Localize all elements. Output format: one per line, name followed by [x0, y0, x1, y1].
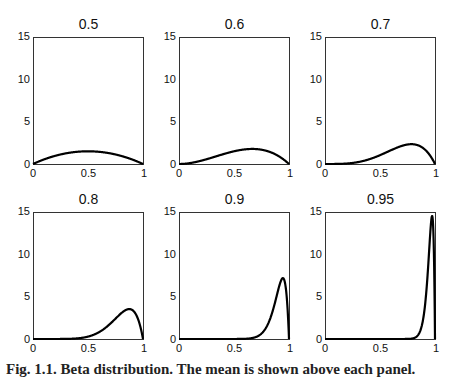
x-tick-label: 0.5	[77, 343, 101, 354]
density-curve	[179, 37, 290, 165]
subplot-title: 0.7	[325, 16, 436, 32]
y-tick-label: 15	[152, 31, 176, 42]
x-tick-label: 0.5	[369, 168, 393, 179]
x-tick-label: 0.5	[223, 168, 247, 179]
subplot-title: 0.6	[179, 16, 290, 32]
density-curve	[325, 212, 436, 340]
density-curve	[325, 37, 436, 165]
y-tick-label: 15	[298, 31, 322, 42]
density-curve	[33, 37, 144, 165]
x-tick-label: 1	[424, 168, 448, 179]
x-tick-label: 0	[313, 168, 337, 179]
y-tick-label: 10	[152, 74, 176, 85]
figure-caption: Fig. 1.1. Beta distribution. The mean is…	[6, 361, 415, 378]
x-tick-label: 0.5	[369, 343, 393, 354]
y-tick-label: 15	[6, 31, 30, 42]
x-tick-label: 0	[21, 343, 45, 354]
y-tick-label: 5	[6, 116, 30, 127]
density-curve	[33, 212, 144, 340]
y-tick-label: 10	[298, 74, 322, 85]
subplot-title: 0.8	[33, 191, 144, 207]
y-tick-label: 5	[152, 116, 176, 127]
x-tick-label: 0.5	[77, 168, 101, 179]
subplot-title: 0.95	[325, 191, 436, 207]
y-tick-label: 5	[152, 291, 176, 302]
subplot-title: 0.5	[33, 16, 144, 32]
y-tick-label: 15	[152, 206, 176, 217]
x-tick-label: 0	[167, 343, 191, 354]
y-tick-label: 10	[152, 249, 176, 260]
y-tick-label: 10	[6, 74, 30, 85]
x-tick-label: 0	[21, 168, 45, 179]
x-tick-label: 1	[424, 343, 448, 354]
y-tick-label: 15	[6, 206, 30, 217]
y-tick-label: 5	[6, 291, 30, 302]
y-tick-label: 10	[298, 249, 322, 260]
x-tick-label: 0	[313, 343, 337, 354]
y-tick-label: 5	[298, 291, 322, 302]
density-curve	[179, 212, 290, 340]
x-tick-label: 0.5	[223, 343, 247, 354]
subplot-title: 0.9	[179, 191, 290, 207]
y-tick-label: 5	[298, 116, 322, 127]
y-tick-label: 10	[6, 249, 30, 260]
x-tick-label: 0	[167, 168, 191, 179]
y-tick-label: 15	[298, 206, 322, 217]
